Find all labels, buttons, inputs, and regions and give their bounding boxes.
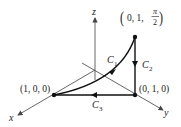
path-diagram: z x y (1, 0, 0) (0, 1, 0) ( 0, 1, π 2 ) … bbox=[0, 0, 181, 127]
z-axis-label: z bbox=[91, 6, 96, 17]
svg-text:3: 3 bbox=[99, 105, 103, 113]
label-c2: C 2 bbox=[142, 59, 153, 73]
label-c3: C 3 bbox=[92, 99, 103, 113]
x-axis-label: x bbox=[8, 112, 14, 123]
svg-text:C: C bbox=[142, 59, 149, 70]
point-label-0-1-pi-half: ( 0, 1, π 2 ) bbox=[120, 7, 163, 28]
point-0-1-pi-half bbox=[133, 35, 137, 39]
svg-text:): ) bbox=[159, 8, 163, 27]
segment-c3-arrow-icon bbox=[91, 92, 97, 98]
point-label-1-0-0: (1, 0, 0) bbox=[20, 84, 50, 95]
svg-text:1: 1 bbox=[114, 60, 118, 68]
fraction-numerator: π bbox=[153, 7, 158, 16]
y-axis-label: y bbox=[163, 107, 169, 118]
svg-text:2: 2 bbox=[149, 65, 153, 73]
segment-c2-arrow-icon bbox=[132, 61, 138, 67]
svg-text:C: C bbox=[107, 54, 114, 65]
point-label-prefix: 0, 1, bbox=[127, 13, 144, 23]
label-c1: C 1 bbox=[107, 54, 118, 68]
fraction-denominator: 2 bbox=[153, 18, 157, 27]
point-1-0-0 bbox=[52, 93, 56, 97]
svg-text:C: C bbox=[92, 99, 99, 110]
point-0-1-0 bbox=[133, 93, 137, 97]
svg-text:(: ( bbox=[120, 8, 124, 27]
point-label-0-1-0: (0, 1, 0) bbox=[139, 84, 169, 95]
